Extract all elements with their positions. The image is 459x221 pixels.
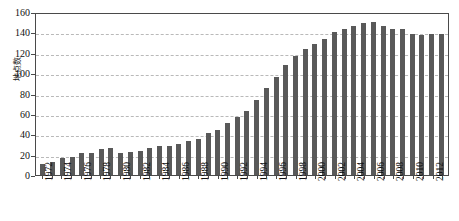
bar-slot xyxy=(174,14,184,175)
x-tick-mark xyxy=(91,176,92,179)
x-tick-mark xyxy=(227,176,228,179)
x-tick-slot: 1976 xyxy=(76,176,86,221)
x-tick-slot: 2008 xyxy=(389,176,399,221)
x-tick-mark xyxy=(325,176,326,179)
x-tick-mark xyxy=(403,176,404,179)
x-tick-slot xyxy=(86,176,96,221)
bar-slot xyxy=(349,14,359,175)
x-tick-slot: 1984 xyxy=(154,176,164,221)
x-tick-mark xyxy=(247,176,248,179)
bar-slot xyxy=(281,14,291,175)
bar-slot xyxy=(164,14,174,175)
bar-slot xyxy=(135,14,145,175)
bar xyxy=(283,65,288,175)
x-tick-slot: 1996 xyxy=(271,176,281,221)
x-tick-slot: 1972 xyxy=(37,176,47,221)
y-tick-label: 140 xyxy=(0,28,30,38)
x-tick-mark xyxy=(130,176,131,179)
x-tick-mark xyxy=(188,176,189,179)
bar xyxy=(371,22,376,175)
x-tick-slot: 1998 xyxy=(291,176,301,221)
x-tick-slot xyxy=(340,176,350,221)
x-tick-slot: 2010 xyxy=(408,176,418,221)
x-tick-mark xyxy=(149,176,150,179)
x-tick-mark xyxy=(306,176,307,179)
x-tick-mark xyxy=(218,176,219,179)
x-tick-mark xyxy=(159,176,160,179)
bar xyxy=(322,39,327,176)
x-tick-slot: 1992 xyxy=(232,176,242,221)
bar-slot xyxy=(145,14,155,175)
x-tick-mark xyxy=(413,176,414,179)
x-tick-mark xyxy=(110,176,111,179)
x-axis-ticks: 1972197419761978198019821984198619881990… xyxy=(35,176,449,221)
bar xyxy=(293,56,298,175)
bar-slot xyxy=(203,14,213,175)
x-tick-slot xyxy=(125,176,135,221)
bar-slot xyxy=(388,14,398,175)
x-tick-mark xyxy=(179,176,180,179)
x-tick-slot: 2006 xyxy=(369,176,379,221)
bar xyxy=(419,35,424,175)
bar-slot xyxy=(96,14,106,175)
bar-slot xyxy=(417,14,427,175)
y-tick-label: 20 xyxy=(0,151,30,161)
x-tick-slot xyxy=(398,176,408,221)
x-tick-mark xyxy=(384,176,385,179)
x-tick-slot xyxy=(105,176,115,221)
x-tick-slot: 1990 xyxy=(213,176,223,221)
x-tick-mark xyxy=(266,176,267,179)
bar xyxy=(410,34,415,175)
x-tick-slot xyxy=(47,176,57,221)
bar-slot xyxy=(184,14,194,175)
x-tick-mark xyxy=(423,176,424,179)
x-tick-slot xyxy=(379,176,389,221)
bar xyxy=(400,29,405,175)
x-tick-slot xyxy=(418,176,428,221)
bar-slot xyxy=(407,14,417,175)
x-tick-slot: 1988 xyxy=(193,176,203,221)
bar-slot xyxy=(330,14,340,175)
x-tick-slot: 2002 xyxy=(330,176,340,221)
bar-slot xyxy=(320,14,330,175)
bar xyxy=(361,23,366,175)
x-tick-mark xyxy=(296,176,297,179)
bar-slot xyxy=(155,14,165,175)
bar-slot xyxy=(436,14,446,175)
bar xyxy=(381,26,386,175)
x-tick-slot: 2004 xyxy=(350,176,360,221)
bar-slot xyxy=(359,14,369,175)
x-tick-mark xyxy=(364,176,365,179)
bar-series xyxy=(36,14,448,175)
x-tick-mark xyxy=(433,176,434,179)
x-tick-slot xyxy=(223,176,233,221)
bar-slot xyxy=(38,14,48,175)
bar xyxy=(342,29,347,175)
x-tick-slot xyxy=(183,176,193,221)
y-tick-label: 100 xyxy=(0,69,30,79)
x-tick-slot xyxy=(203,176,213,221)
bar-slot xyxy=(77,14,87,175)
bar xyxy=(351,26,356,175)
bar-slot xyxy=(116,14,126,175)
bar-slot xyxy=(310,14,320,175)
bar xyxy=(332,32,337,175)
x-tick-slot xyxy=(242,176,252,221)
x-tick-mark xyxy=(71,176,72,179)
bar xyxy=(274,77,279,175)
x-tick-slot xyxy=(262,176,272,221)
x-tick-mark xyxy=(208,176,209,179)
bar-slot xyxy=(67,14,77,175)
x-tick-slot: 1994 xyxy=(252,176,262,221)
y-tick-label: 40 xyxy=(0,130,30,140)
bar-slot xyxy=(213,14,223,175)
plot-area xyxy=(35,13,449,176)
y-tick-label: 80 xyxy=(0,90,30,100)
x-tick-slot: 1980 xyxy=(115,176,125,221)
bar-slot xyxy=(223,14,233,175)
bar-slot xyxy=(262,14,272,175)
x-tick-mark xyxy=(81,176,82,179)
bar-slot xyxy=(398,14,408,175)
bar-slot xyxy=(57,14,67,175)
x-tick-mark xyxy=(345,176,346,179)
